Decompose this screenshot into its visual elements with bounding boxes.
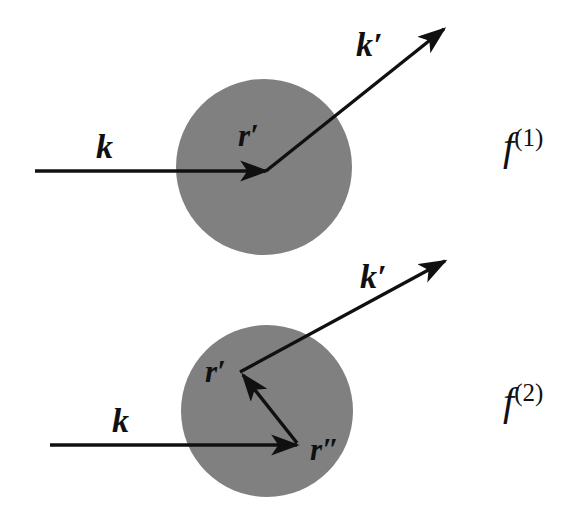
incoming-wavevector-label-first-order: k bbox=[96, 128, 113, 165]
scattering-point-label-r-prime-second-order: r′ bbox=[205, 354, 226, 389]
scattering-point-label-r-prime-first-order: r′ bbox=[238, 118, 259, 153]
scattering-point-label-r-double-prime-second-order: r″ bbox=[310, 432, 339, 467]
target-disk-first-order bbox=[176, 79, 352, 255]
scattering-figure: k k′ r′ f(1) k k′ r′ r″ f(2) bbox=[0, 0, 579, 526]
incoming-wavevector-label-second-order: k bbox=[112, 402, 129, 439]
outgoing-wavevector-label-first-order: k′ bbox=[356, 26, 383, 63]
target-disk-second-order bbox=[181, 325, 353, 497]
amplitude-order-first-order: (1) bbox=[514, 124, 543, 152]
figure-canvas: k k′ r′ f(1) k k′ r′ r″ f(2) bbox=[0, 0, 579, 526]
amplitude-order-second-order: (2) bbox=[514, 379, 543, 407]
outgoing-wavevector-label-second-order: k′ bbox=[360, 258, 387, 295]
